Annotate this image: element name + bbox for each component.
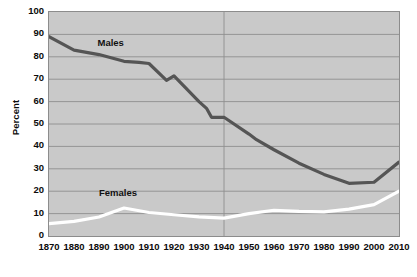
y-tick-label: 80 <box>18 51 44 61</box>
y-tick-label: 70 <box>18 73 44 83</box>
y-tick-label: 40 <box>18 140 44 150</box>
y-tick-label: 0 <box>18 230 44 240</box>
y-tick-label: 20 <box>18 185 44 195</box>
y-tick-label: 10 <box>18 208 44 218</box>
y-tick-label: 30 <box>18 163 44 173</box>
y-tick-label: 50 <box>18 118 44 128</box>
line-chart: Percent 1009080706050403020100 Males Fem… <box>0 0 417 277</box>
y-tick-label: 100 <box>18 6 44 16</box>
y-tick-label: 90 <box>18 28 44 38</box>
x-tick-label: 2010 <box>379 242 417 252</box>
y-tick-label: 60 <box>18 96 44 106</box>
x-axis-tick-labels: 1870188018901900191019201930194019501960… <box>0 242 417 262</box>
y-axis-tick-labels: 1009080706050403020100 <box>16 0 44 277</box>
plot-area: Males Females <box>48 11 400 237</box>
series-label-females: Females <box>99 187 137 198</box>
series-label-males: Males <box>98 37 124 48</box>
